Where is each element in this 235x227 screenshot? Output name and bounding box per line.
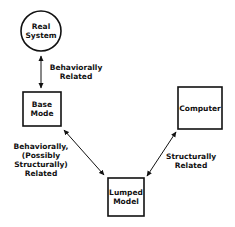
diagram-canvas: Real System Base Mode Computer Lumped Mo… [0,0,235,227]
real-system-label: Real System [21,11,61,51]
lumped-model-label: Lumped Model [108,178,144,216]
edge-label-behaviorally-related: Behaviorally Related [48,63,104,81]
computer-label: Computer [178,87,222,129]
base-mode-label: Base Mode [23,92,61,126]
edge-label-behaviorally-possibly-structurally-related: Behaviorally, (Possibly Structurally) Re… [10,142,72,178]
edge-label-structurally-related: Structurally Related [166,152,216,170]
